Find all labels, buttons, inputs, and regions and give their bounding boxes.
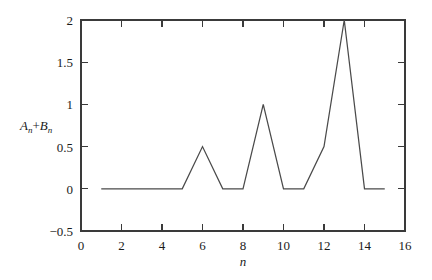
y-tick-label: 0.5 (57, 140, 73, 155)
y-axis-title-plus: + (32, 118, 39, 133)
x-tick-label: 12 (318, 238, 331, 253)
y-axis-title-b-sub: n (48, 125, 53, 135)
x-tick-label: 6 (199, 238, 206, 253)
x-axis-title: n (240, 254, 247, 269)
x-tick-label: 2 (118, 238, 125, 253)
x-tick-label: 10 (277, 238, 290, 253)
x-tick-label: 8 (240, 238, 247, 253)
x-tick-label: 4 (159, 238, 166, 253)
y-axis-title-a: A (19, 118, 28, 133)
svg-text:An+Bn: An+Bn (19, 118, 53, 135)
chart-figure: −0.5 0 0.5 1 1.5 2 0 2 4 6 8 10 12 14 16… (0, 0, 432, 280)
x-tick-label: 14 (358, 238, 372, 253)
y-tick-label: 0 (67, 182, 74, 197)
y-tick-label: 1.5 (57, 55, 73, 70)
x-tick-labels: 0 2 4 6 8 10 12 14 16 (78, 238, 412, 253)
x-tick-label: 0 (78, 238, 85, 253)
line-chart: −0.5 0 0.5 1 1.5 2 0 2 4 6 8 10 12 14 16… (0, 0, 432, 280)
y-tick-label: −0.5 (49, 224, 73, 239)
data-series-line (101, 20, 385, 189)
y-tick-labels: −0.5 0 0.5 1 1.5 2 (49, 13, 73, 239)
y-axis-title: An+Bn (19, 118, 53, 135)
y-axis-title-b: B (40, 118, 48, 133)
x-tick-label: 16 (399, 238, 413, 253)
y-tick-label: 2 (67, 13, 74, 28)
y-tick-label: 1 (67, 97, 74, 112)
